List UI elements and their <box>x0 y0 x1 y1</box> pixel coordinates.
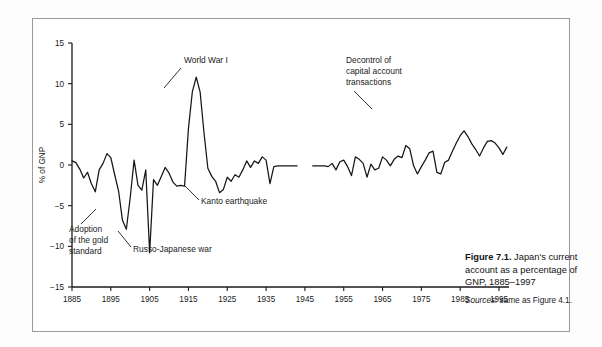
figure-container: 151050−5−10−15 1885189519051915192519351… <box>0 0 602 347</box>
annotation-decontrol-line2: capital account <box>346 66 403 76</box>
x-tick-label: 1975 <box>412 295 431 304</box>
x-tick-label: 1915 <box>179 295 198 304</box>
annotation-gold-standard-line2: of the gold <box>69 235 108 245</box>
chart-annotations: World War I Adoption of the gold standar… <box>69 55 403 256</box>
y-tick-label: 10 <box>55 80 65 89</box>
annotation-decontrol-line1: Decontrol of <box>346 55 392 65</box>
annotation-decontrol-line3: transactions <box>346 77 391 87</box>
x-tick-label: 1935 <box>257 295 276 304</box>
annotation-gold-standard-line3: standard <box>69 246 102 256</box>
annotation-decontrol-leader <box>354 91 372 109</box>
x-tick-label: 1895 <box>102 295 121 304</box>
figure-caption: Figure 7.1. Japan's current account as a… <box>465 251 593 306</box>
y-axis-title: % of GNP <box>38 146 47 183</box>
figure-sources-label: Sources: <box>465 296 497 305</box>
chart-series-lines <box>72 77 507 253</box>
x-tick-label: 1945 <box>296 295 315 304</box>
figure-frame-border: 151050−5−10−15 1885189519051915192519351… <box>32 18 570 332</box>
y-tick-label: −10 <box>50 242 64 251</box>
annotation-kanto-earthquake-label: Kanto earthquake <box>201 196 267 206</box>
annotation-world-war-i-label: World War I <box>184 55 228 65</box>
y-tick-label: −5 <box>55 202 65 211</box>
data-series-line <box>313 131 507 177</box>
annotation-world-war-i-leader <box>164 68 181 88</box>
x-tick-label: 1955 <box>335 295 354 304</box>
data-series-line <box>72 77 297 253</box>
x-tick-label: 1905 <box>141 295 160 304</box>
figure-caption-label: Figure 7.1. <box>465 252 512 262</box>
y-tick-label: 5 <box>59 120 64 129</box>
y-tick-label: −15 <box>50 283 64 292</box>
annotation-russo-japanese-war-leader <box>118 231 131 247</box>
y-tick-label: 15 <box>55 39 65 48</box>
x-axis-ticks: 1885189519051915192519351945195519651975… <box>63 287 509 304</box>
annotation-russo-japanese-war-label: Russo-Japanese war <box>133 244 212 254</box>
y-tick-label: 0 <box>59 161 64 170</box>
figure-sources: Sources: same as Figure 4.1. <box>465 295 593 306</box>
x-tick-label: 1965 <box>373 295 392 304</box>
figure-sources-text: same as Figure 4.1. <box>500 296 572 305</box>
x-tick-label: 1925 <box>218 295 237 304</box>
annotation-gold-standard-leader <box>81 209 96 224</box>
x-tick-label: 1885 <box>63 295 82 304</box>
annotation-kanto-earthquake-leader <box>185 186 199 200</box>
annotation-gold-standard-line1: Adoption <box>69 224 102 234</box>
